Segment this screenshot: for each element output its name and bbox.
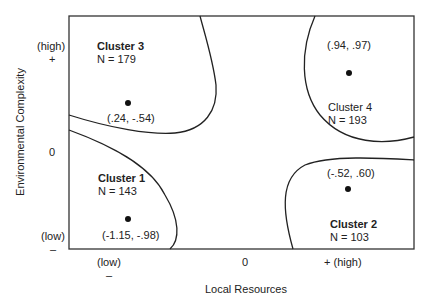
- y-tick-low: (low): [41, 230, 65, 242]
- cluster-3-name: Cluster 3: [97, 40, 144, 52]
- cluster-2-centroid: [345, 186, 351, 192]
- y-tick-zero: 0: [49, 146, 55, 158]
- cluster-2-coord: (-.52, .60): [327, 167, 375, 179]
- x-tick-zero: 0: [242, 256, 248, 268]
- cluster-4-centroid: [346, 70, 352, 76]
- cluster-3-n: N = 179: [97, 53, 136, 65]
- cluster-3-coord: (.24, -.54): [107, 112, 155, 124]
- cluster-3-centroid: [125, 100, 131, 106]
- cluster-2-name: Cluster 2: [330, 218, 377, 230]
- x-axis-label: Local Resources: [205, 283, 287, 295]
- y-tick-high: (high): [37, 40, 65, 52]
- cluster-1-name: Cluster 1: [98, 172, 145, 184]
- x-tick-low: (low): [97, 256, 121, 268]
- x-tick-minus: –: [106, 269, 112, 281]
- cluster-2-n: N = 103: [330, 231, 369, 243]
- y-tick-minus: –: [50, 243, 56, 255]
- cluster-1-centroid: [125, 216, 131, 222]
- y-tick-plus: +: [49, 53, 55, 65]
- cluster-1-coord: (-1.15, -.98): [102, 229, 159, 241]
- cluster-4-n: N = 193: [328, 114, 367, 126]
- cluster-4-coord: (.94, .97): [327, 39, 371, 51]
- cluster-4-name: Cluster 4: [328, 101, 372, 113]
- y-axis-label: Environmental Complexity: [14, 67, 26, 197]
- x-tick-high: + (high): [324, 256, 362, 268]
- cluster-1-n: N = 143: [98, 185, 137, 197]
